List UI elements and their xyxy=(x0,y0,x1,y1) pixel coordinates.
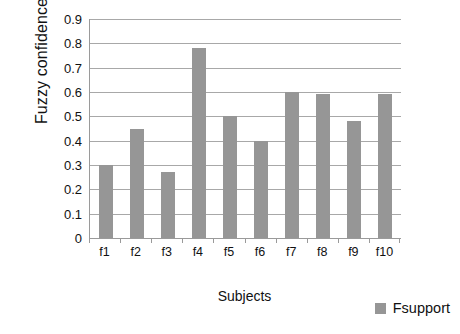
x-axis-title: Subjects xyxy=(89,288,400,304)
bar-slot xyxy=(90,19,121,238)
y-axis-tick-label: 0.8 xyxy=(64,36,82,51)
bar-f10[interactable] xyxy=(378,94,392,238)
x-axis-tick-labels: f1f2f3f4f5f6f7f8f9f10 xyxy=(89,245,400,265)
y-axis-tick-label: 0.7 xyxy=(64,60,82,75)
bar-f7[interactable] xyxy=(285,92,299,238)
x-axis-tick xyxy=(151,238,152,243)
y-axis-tick-label: 0.5 xyxy=(64,109,82,124)
bar-slot xyxy=(308,19,339,238)
y-axis-tick-label: 0.9 xyxy=(64,12,82,27)
x-axis-tick xyxy=(338,238,339,243)
legend-swatch-fsupport xyxy=(375,303,386,314)
bar-slot xyxy=(277,19,308,238)
x-axis-tick-label-f9: f9 xyxy=(348,245,358,259)
bar-f3[interactable] xyxy=(161,172,175,238)
y-axis-tick-labels: 0.90.80.70.60.50.40.30.20.10 xyxy=(48,19,82,238)
y-axis-tick-label: 0.3 xyxy=(64,158,82,173)
x-axis-tick xyxy=(182,238,183,243)
y-axis-tick-label: 0 xyxy=(75,231,82,246)
x-axis-tick xyxy=(245,238,246,243)
x-axis-tick-label-f7: f7 xyxy=(286,245,296,259)
x-axis-tick xyxy=(89,238,90,243)
x-axis-tick-label-f2: f2 xyxy=(130,245,140,259)
legend-label-fsupport: Fsupport xyxy=(393,300,450,316)
bar-f2[interactable] xyxy=(130,129,144,239)
x-axis-tick-label-f6: f6 xyxy=(255,245,265,259)
x-axis-tick-label-f10: f10 xyxy=(376,245,393,259)
bar-f1[interactable] xyxy=(99,165,113,238)
bar-slot xyxy=(370,19,401,238)
bar-slot xyxy=(246,19,277,238)
x-axis-tick xyxy=(120,238,121,243)
x-axis-tick-label-f5: f5 xyxy=(224,245,234,259)
x-axis-tick xyxy=(213,238,214,243)
x-axis-tick-label-f3: f3 xyxy=(162,245,172,259)
bar-slot xyxy=(152,19,183,238)
bar-f5[interactable] xyxy=(223,116,237,238)
bar-f4[interactable] xyxy=(192,48,206,238)
y-axis-tick-label: 0.2 xyxy=(64,182,82,197)
y-axis-tick-label: 0.4 xyxy=(64,133,82,148)
bar-f8[interactable] xyxy=(316,94,330,238)
x-axis-tick-label-f4: f4 xyxy=(193,245,203,259)
y-axis-tick-label: 0.6 xyxy=(64,85,82,100)
x-axis-tick-label-f1: f1 xyxy=(99,245,109,259)
bar-slot xyxy=(214,19,245,238)
chart-legend: Fsupport xyxy=(375,300,450,316)
x-axis-ticks xyxy=(89,238,400,243)
bar-slot xyxy=(339,19,370,238)
bar-f9[interactable] xyxy=(347,121,361,238)
x-axis-tick xyxy=(276,238,277,243)
bar-f6[interactable] xyxy=(254,141,268,238)
plot-area xyxy=(89,19,401,238)
y-axis-tick-label: 0.1 xyxy=(64,206,82,221)
x-axis-tick-label-f8: f8 xyxy=(317,245,327,259)
x-axis-tick xyxy=(399,238,400,243)
x-axis-tick xyxy=(307,238,308,243)
x-axis-tick xyxy=(369,238,370,243)
bar-slot xyxy=(121,19,152,238)
bar-series-fsupport xyxy=(90,19,401,238)
bar-slot xyxy=(183,19,214,238)
